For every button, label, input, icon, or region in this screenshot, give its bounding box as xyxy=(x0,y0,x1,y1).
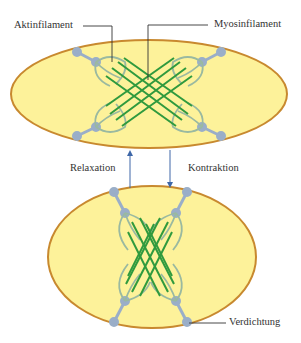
contraction-arrow xyxy=(167,150,173,188)
contracted-cell xyxy=(48,186,256,328)
label-aktinfilament: Aktinfilament xyxy=(14,20,73,31)
relaxation-arrow xyxy=(127,150,133,188)
label-relaxation: Relaxation xyxy=(70,163,116,174)
label-myosinfilament: Myosinfilament xyxy=(214,19,281,30)
label-verdichtung: Verdichtung xyxy=(229,317,280,328)
relaxed-cell xyxy=(11,40,287,148)
label-kontraktion: Kontraktion xyxy=(188,163,239,174)
smooth-muscle-diagram xyxy=(0,0,301,343)
